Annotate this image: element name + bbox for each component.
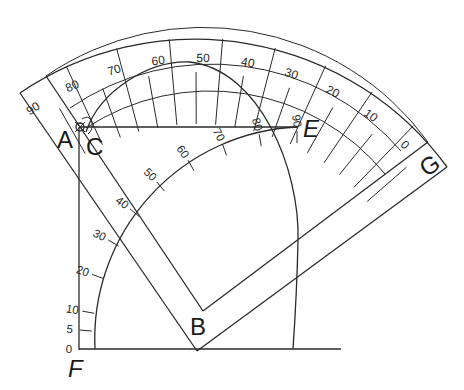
protractor-ring-label: 10 — [361, 106, 380, 125]
label-e: E — [303, 115, 320, 142]
protractor-ring-label: 30 — [283, 65, 300, 83]
protractor-right-inner-edge — [203, 142, 428, 311]
protractor-tick — [169, 39, 177, 125]
protractor-ring-label: 50 — [196, 51, 210, 65]
protractor-tick — [216, 39, 223, 125]
protractor-ring-label: 60 — [151, 53, 166, 69]
protractor-tick — [354, 125, 414, 187]
quarter-scale-label: 60 — [174, 143, 191, 160]
label-a: A — [57, 126, 73, 153]
quarter-scale-label: 0 — [66, 343, 72, 355]
label-g: G — [414, 149, 445, 182]
quarter-scale-label: 90 — [290, 114, 304, 129]
protractor-ring-2 — [70, 64, 401, 151]
diagram-canvas: 9080706050403020100 05102030405060708090… — [0, 0, 464, 390]
protractor-diagram: 9080706050403020100 05102030405060708090… — [0, 0, 464, 390]
protractor-left-edge — [20, 93, 197, 351]
quarter-scale-label: 30 — [91, 227, 108, 244]
label-f: F — [68, 355, 84, 382]
protractor-right-edge — [197, 167, 447, 351]
protractor-tick — [103, 88, 121, 137]
quarter-scale-tick — [259, 134, 261, 146]
quarter-scale-label: 20 — [75, 263, 91, 278]
quarter-scale-label: 70 — [211, 126, 228, 143]
quarter-scale-label: 50 — [142, 166, 160, 184]
quarter-scale-label: 10 — [65, 302, 80, 316]
protractor-outer-arc — [20, 39, 447, 167]
quarter-scale-tick — [222, 144, 226, 155]
quarter-scale-tick — [80, 330, 92, 331]
quarter-scale-tick — [82, 311, 94, 313]
protractor: 9080706050403020100 — [20, 27, 447, 351]
quarter-scale-label: 40 — [114, 194, 131, 211]
protractor-tick — [149, 76, 158, 127]
protractor-ring-label: 40 — [240, 54, 256, 70]
quarter-scale-label: 5 — [66, 323, 73, 335]
protractor-ring-label: 20 — [324, 82, 343, 101]
quarter-scale-tick — [92, 274, 103, 278]
label-c: C — [86, 133, 103, 160]
protractor-ring-1 — [46, 27, 428, 142]
protractor-left-inner-edge — [46, 76, 203, 311]
label-b: B — [190, 313, 206, 340]
quarter-scale-label: 80 — [250, 117, 265, 133]
protractor-tick — [117, 49, 139, 132]
